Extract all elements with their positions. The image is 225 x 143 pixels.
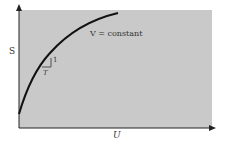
x-axis-arrow-icon: [209, 125, 216, 131]
slope-rise-label: 1: [53, 57, 57, 64]
x-axis-label: U: [113, 131, 121, 140]
curve-label: V = constant: [90, 30, 142, 38]
y-axis-label: S: [9, 47, 15, 56]
slope-run-label: T: [43, 70, 48, 77]
y-axis-arrow-icon: [16, 4, 22, 11]
su-diagram: [0, 0, 225, 143]
